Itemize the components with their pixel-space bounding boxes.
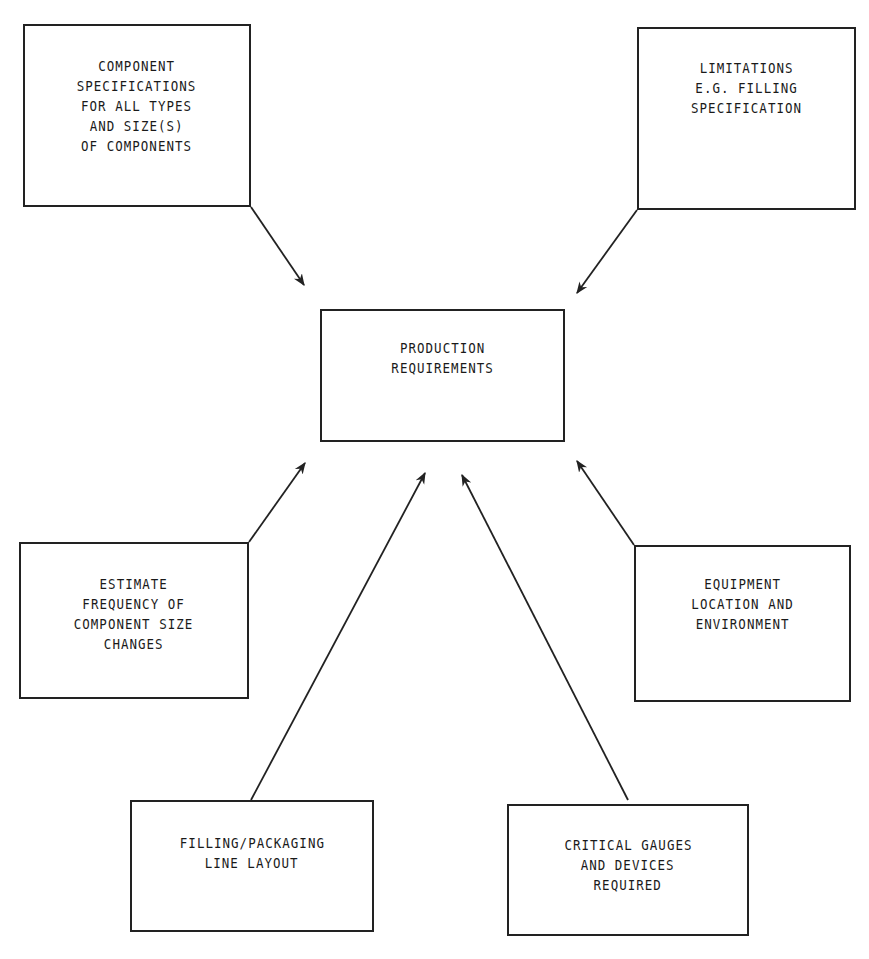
arrow-limitations-to-production — [577, 210, 637, 293]
arrow-critical-to-production — [462, 475, 628, 800]
node-text-line: LINE LAYOUT — [205, 853, 299, 873]
node-text-line: EQUIPMENT — [704, 574, 781, 594]
flow-diagram: COMPONENT SPECIFICATIONS FOR ALL TYPES A… — [0, 0, 869, 959]
node-text-line: CRITICAL GAUGES — [564, 835, 692, 855]
node-text-line: FREQUENCY OF — [83, 594, 185, 614]
node-text-line: ESTIMATE — [100, 574, 168, 594]
node-text-line: AND SIZE(S) — [90, 116, 184, 136]
arrow-component-specs-to-production — [251, 207, 304, 285]
node-text-line: FILLING/PACKAGING — [179, 833, 324, 853]
node-critical-gauges: CRITICAL GAUGES AND DEVICES REQUIRED — [507, 804, 749, 936]
node-text-line: PRODUCTION — [400, 338, 485, 358]
node-text-line: LIMITATIONS — [700, 58, 794, 78]
arrow-filling-to-production — [251, 473, 425, 800]
node-filling-packaging-layout: FILLING/PACKAGING LINE LAYOUT — [130, 800, 374, 932]
node-text-line: COMPONENT — [99, 56, 176, 76]
arrow-equipment-to-production — [577, 461, 634, 545]
node-equipment-location: EQUIPMENT LOCATION AND ENVIRONMENT — [634, 545, 851, 702]
node-text-line: COMPONENT SIZE — [74, 614, 194, 634]
node-text-line: CHANGES — [104, 634, 164, 654]
arrow-estimate-to-production — [249, 463, 305, 542]
node-text-line: SPECIFICATIONS — [77, 76, 197, 96]
node-text-line: E.G. FILLING — [695, 78, 797, 98]
node-text-line: SPECIFICATION — [691, 98, 802, 118]
node-production-requirements: PRODUCTION REQUIREMENTS — [320, 309, 565, 442]
node-text-line: LOCATION AND — [691, 594, 793, 614]
node-component-specifications: COMPONENT SPECIFICATIONS FOR ALL TYPES A… — [23, 24, 251, 207]
node-text-line: AND DEVICES — [581, 855, 675, 875]
node-text-line: FOR ALL TYPES — [81, 96, 192, 116]
node-text-line: ENVIRONMENT — [696, 614, 790, 634]
node-text-line: REQUIREMENTS — [391, 358, 493, 378]
node-text-line: OF COMPONENTS — [81, 136, 192, 156]
node-estimate-frequency: ESTIMATE FREQUENCY OF COMPONENT SIZE CHA… — [19, 542, 249, 699]
node-text-line: REQUIRED — [594, 875, 662, 895]
node-limitations: LIMITATIONS E.G. FILLING SPECIFICATION — [637, 27, 856, 210]
